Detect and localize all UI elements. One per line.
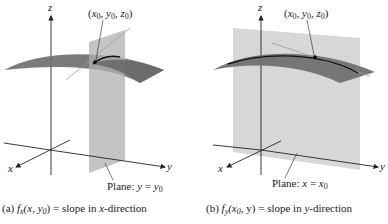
partial-derivatives-diagram: z y x (x0, y0, z0) Plane: y = y0 (a) fx(…	[0, 0, 388, 224]
caption-b: (b) fy(x0, y) = slope in y-direction	[206, 202, 353, 216]
x-axis-a	[16, 140, 70, 167]
plane-label-a: Plane: y = y0	[107, 180, 163, 194]
horizontal-axis-a	[4, 143, 50, 150]
z-axis-label-b: z	[257, 1, 263, 13]
x-axis-label-a: x	[7, 162, 13, 174]
plane-y-eq-y0	[89, 30, 125, 173]
point-label-a: (x0, y0, z0)	[88, 7, 133, 21]
point-x0y0z0-b	[313, 55, 317, 59]
plane-label-b: Plane: x = x0	[272, 177, 328, 191]
caption-a: (a) fx(x, y0) = slope in x-direction	[2, 202, 147, 216]
y-axis-label-b: y	[379, 160, 385, 172]
point-label-b: (x0, y0, z0)	[284, 7, 329, 21]
x-axis-label-b: x	[217, 162, 223, 174]
z-axis-label-a: z	[47, 1, 53, 13]
point-x0y0z0-a	[93, 60, 97, 64]
y-axis-label-a: y	[166, 160, 172, 172]
panel-a: z y x (x0, y0, z0) Plane: y = y0 (a) fx(…	[2, 1, 172, 216]
panel-b: z y x (x0, y0, z0) Plane: x = x0 (b) fy(…	[206, 1, 385, 216]
